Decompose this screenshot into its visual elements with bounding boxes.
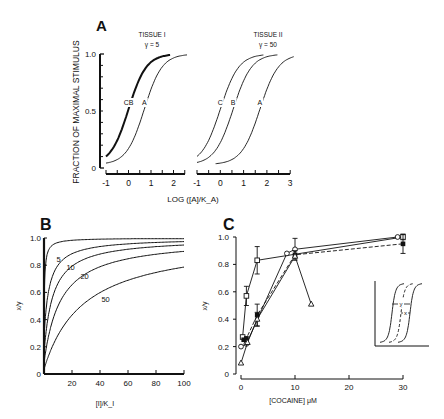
panel-c-axes: 00.20.40.60.81.00102030 [218,233,408,392]
panel-a-ylabel: FRACTION OF MAXIMAL STIMULUS [71,40,81,184]
series-triangle-open [238,253,314,365]
panel-c-ytick: 0.8 [218,260,230,269]
panel-a-ytick: 1.0 [85,50,97,59]
inhibition-curve-20 [44,251,184,362]
panel-c-inset-diagram: yx [375,281,429,346]
curve-label: C [218,99,223,106]
panel-b-xtick: 40 [96,379,105,388]
curve-label: 20 [80,272,88,281]
curve-label: CB [124,99,134,106]
panel-a-xtick: 1 [241,178,246,188]
figure: A TISSUE I γ = 5 TISSUE II γ = 50 FRACTI… [0,0,444,419]
inhibition-curve-50 [44,267,184,369]
data-point [309,301,314,306]
panel-c-label: C [223,216,235,233]
panel-a-xtick: -1 [193,178,201,188]
panel-c-series [238,234,405,365]
panel-c-xtick: 0 [239,383,244,392]
curve-label: A [142,99,147,106]
tissue-1-title: TISSUE I [138,31,165,38]
series-square-filled [241,234,405,342]
inhibition-curve-10 [44,245,184,353]
series-square-open [240,234,405,339]
panel-b-ytick: 0 [37,370,42,379]
panel-a-label: A [96,17,107,34]
panel-b-xtick: 60 [124,379,133,388]
tissue-2-gamma: γ = 50 [259,41,277,49]
panel-c-xtick: 30 [399,383,408,392]
curve-label: 50 [101,295,109,304]
panel-a: A TISSUE I γ = 5 TISSUE II γ = 50 FRACTI… [71,17,294,204]
data-point [395,235,400,240]
panel-b-curves: 5102050 [44,239,184,370]
data-point [285,251,290,256]
panel-b-xtick: 20 [68,379,77,388]
panel-c-xlabel: [COCAINE] μM [269,397,317,405]
dose-response-curve-A [106,55,187,163]
data-point [255,258,260,263]
data-point [238,360,243,365]
panel-a-xtick: 0 [126,178,131,188]
curve-label: B [231,99,236,106]
data-point [401,242,406,247]
panel-c-ytick: 0.6 [218,288,230,297]
panel-b-xtick: 80 [152,379,161,388]
panel-b-ytick: 0.6 [30,288,42,297]
tissue-1-gamma: γ = 5 [145,41,160,49]
panel-a-xtick: 0 [218,178,223,188]
panel-b-xtick: 100 [177,379,191,388]
panel-c: C x/y [COCAINE] μM 00.20.40.60.81.001020… [201,216,429,405]
panel-a-xlabel: LOG ([A]/K_A) [167,195,219,204]
panel-c-xtick: 10 [291,383,300,392]
curve-label: 5 [57,255,61,264]
panel-b: B x/y [I]/K_I 00.20.40.60.81.02040608010… [15,216,191,408]
panel-c-ylabel: x/y [201,301,209,310]
panel-a-ytick: 0 [92,164,97,173]
series-circle-open [239,235,400,349]
curve-label: 10 [66,263,74,272]
data-point [239,344,244,349]
panel-b-label: B [40,216,52,233]
panel-b-ytick: 0.2 [30,343,42,352]
panel-a-curves: CBACBA [106,55,294,164]
tissue-2-title: TISSUE II [254,31,283,38]
dose-response-curve-A [216,57,294,164]
panel-a-xtick: 3 [288,178,293,188]
panel-b-ytick: 1.0 [30,234,42,243]
panel-c-xtick: 20 [345,383,354,392]
dose-response-curve-B [197,55,277,162]
panel-c-ytick: 1.0 [218,233,230,242]
panel-a-xtick: 2 [171,178,176,188]
panel-b-ylabel: x/y [15,301,23,310]
panel-a-ytick: 0.5 [85,107,97,116]
panel-b-ytick: 0.8 [30,261,42,270]
panel-a-xtick: 2 [265,178,270,188]
curve-label: A [258,99,263,106]
data-point [244,294,249,299]
dose-response-curve-CB [106,55,170,156]
panel-b-axes: 00.20.40.60.81.020406080100 [30,234,191,388]
panel-c-ytick: 0.2 [218,343,230,352]
inset-label-y: y [400,301,403,307]
panel-a-axes: 00.51.0-1012-10123 [85,50,293,188]
inhibition-curve-1 [44,239,184,312]
panel-b-xlabel: [I]/K_I [96,400,114,408]
panel-a-xtick: 1 [149,178,154,188]
panel-c-ytick: 0.4 [218,315,230,324]
panel-c-ytick: 0 [225,370,230,379]
panel-b-ytick: 0.4 [30,316,42,325]
inset-label-x: x [404,310,407,316]
panel-a-xtick: -1 [102,178,110,188]
